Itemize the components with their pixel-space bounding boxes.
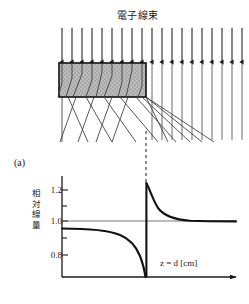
- scattered-track: [86, 97, 112, 142]
- scattered-track-group: [60, 97, 214, 142]
- scattered-track: [68, 97, 88, 142]
- dose-curve-after-interface: [146, 183, 236, 221]
- y-tick-label-1: 1.2: [36, 185, 62, 195]
- scattered-track: [78, 97, 94, 142]
- scattered-track: [96, 97, 112, 142]
- scattered-track: [146, 97, 168, 142]
- beam-continuation-group: [152, 63, 242, 140]
- beam-title-label: 電子線束: [91, 7, 159, 22]
- beam-title: 電子線束: [0, 7, 249, 22]
- panel-tag-a: (a): [14, 157, 25, 168]
- y-axis-label-char-2: 対: [29, 199, 43, 210]
- y-tick-group: [62, 190, 68, 255]
- scattered-track: [112, 97, 128, 142]
- x-axis-label: z = d [cm]: [160, 258, 197, 268]
- figure-container: 電子線束 (a) 相 対 線 量 1.2 1.0 0.8 z = d [cm]: [0, 0, 249, 304]
- scattered-track: [146, 97, 202, 142]
- dose-curve-before-interface: [62, 229, 145, 278]
- y-tick-label-2: 1.0: [36, 216, 62, 226]
- beam-arrow-group: [62, 28, 242, 62]
- y-tick-label-3: 0.8: [36, 250, 62, 260]
